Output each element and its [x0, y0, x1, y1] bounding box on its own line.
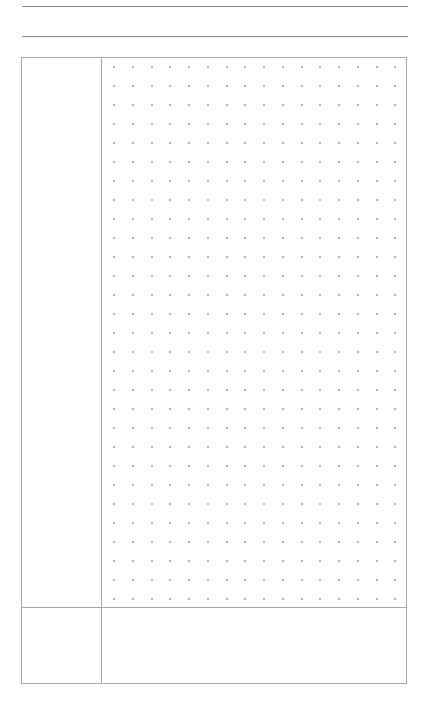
grid-dot — [338, 598, 340, 600]
grid-dot — [338, 313, 340, 315]
grid-dot — [319, 427, 321, 429]
grid-dot — [244, 522, 246, 524]
grid-dot — [169, 161, 171, 163]
grid-dot — [132, 484, 134, 486]
grid-dot — [226, 446, 228, 448]
grid-dot — [319, 560, 321, 562]
grid-dot — [282, 199, 284, 201]
grid-dot — [357, 180, 359, 182]
grid-dot — [394, 66, 396, 68]
grid-dot — [394, 351, 396, 353]
grid-dot — [151, 541, 153, 543]
grid-dot — [151, 161, 153, 163]
grid-dot — [207, 579, 209, 581]
grid-dot — [357, 370, 359, 372]
grid-dot — [169, 313, 171, 315]
grid-dot — [301, 579, 303, 581]
grid-dot — [132, 237, 134, 239]
grid-dot — [244, 218, 246, 220]
grid-dot — [263, 427, 265, 429]
grid-dot — [169, 579, 171, 581]
grid-dot — [169, 237, 171, 239]
grid-dot — [338, 560, 340, 562]
grid-dot — [188, 332, 190, 334]
grid-dot — [132, 104, 134, 106]
grid-dot — [244, 85, 246, 87]
grid-dot — [188, 104, 190, 106]
dot-grid-notes-area[interactable] — [101, 58, 406, 607]
grid-dot — [394, 275, 396, 277]
grid-dot — [357, 218, 359, 220]
summary-body[interactable] — [102, 608, 406, 683]
grid-dot — [301, 351, 303, 353]
grid-dot — [113, 351, 115, 353]
grid-dot — [376, 218, 378, 220]
grid-dot — [357, 332, 359, 334]
grid-dot — [376, 199, 378, 201]
grid-dot — [357, 598, 359, 600]
grid-dot — [263, 522, 265, 524]
grid-dot — [319, 123, 321, 125]
grid-dot — [376, 503, 378, 505]
grid-dot — [244, 199, 246, 201]
grid-dot — [376, 85, 378, 87]
grid-dot — [207, 427, 209, 429]
grid-dot — [263, 294, 265, 296]
grid-dot — [357, 541, 359, 543]
grid-dot — [282, 351, 284, 353]
grid-dot — [151, 370, 153, 372]
grid-dot — [151, 598, 153, 600]
grid-dot — [338, 370, 340, 372]
grid-dot — [263, 389, 265, 391]
grid-dot — [207, 484, 209, 486]
grid-dot — [226, 351, 228, 353]
grid-dot — [151, 123, 153, 125]
grid-dot — [394, 484, 396, 486]
grid-dot — [207, 598, 209, 600]
grid-dot — [357, 237, 359, 239]
grid-dot — [244, 446, 246, 448]
grid-dot — [282, 503, 284, 505]
grid-dot — [132, 218, 134, 220]
grid-dot — [188, 560, 190, 562]
grid-dot — [338, 294, 340, 296]
grid-dot — [188, 275, 190, 277]
grid-dot — [244, 389, 246, 391]
grid-dot — [151, 237, 153, 239]
grid-dot — [301, 180, 303, 182]
grid-dot — [113, 199, 115, 201]
grid-dot — [226, 332, 228, 334]
grid-dot — [394, 465, 396, 467]
grid-dot — [263, 85, 265, 87]
grid-dot — [282, 522, 284, 524]
grid-dot — [132, 541, 134, 543]
grid-dot — [113, 180, 115, 182]
grid-dot — [301, 427, 303, 429]
grid-dot — [319, 465, 321, 467]
grid-dot — [169, 351, 171, 353]
grid-dot — [207, 465, 209, 467]
grid-dot — [301, 484, 303, 486]
grid-dot — [376, 142, 378, 144]
grid-dot — [151, 579, 153, 581]
grid-dot — [244, 427, 246, 429]
cue-column[interactable] — [22, 58, 102, 607]
grid-dot — [319, 484, 321, 486]
grid-dot — [226, 465, 228, 467]
grid-dot — [113, 408, 115, 410]
grid-dot — [151, 332, 153, 334]
summary-cue-cell[interactable] — [22, 608, 102, 683]
grid-dot — [244, 275, 246, 277]
grid-dot — [207, 104, 209, 106]
grid-dot — [319, 85, 321, 87]
grid-dot — [188, 199, 190, 201]
grid-dot — [394, 560, 396, 562]
grid-dot — [338, 541, 340, 543]
grid-dot — [132, 199, 134, 201]
grid-dot — [301, 560, 303, 562]
grid-dot — [226, 85, 228, 87]
grid-dot — [151, 218, 153, 220]
grid-dot — [319, 579, 321, 581]
grid-dot — [244, 256, 246, 258]
grid-dot — [319, 180, 321, 182]
